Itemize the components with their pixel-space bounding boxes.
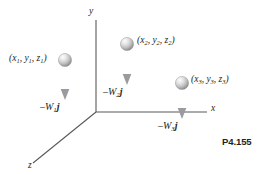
diagram-canvas bbox=[0, 0, 277, 175]
mass-1-sphere bbox=[58, 53, 71, 66]
mass-3-force-minus-w: –W bbox=[158, 120, 171, 131]
mass-2-coord-label: (x2, y2, z2) bbox=[137, 36, 175, 46]
mass-2-coord-close: ) bbox=[172, 35, 175, 45]
mass-2-force-sub: 2 bbox=[116, 91, 119, 98]
mass-1-coord-close: ) bbox=[44, 53, 47, 63]
z-axis-line bbox=[33, 112, 96, 163]
mass-1-coord-mid-y: , y bbox=[20, 53, 29, 63]
mass-3-force-label: –W3j bbox=[158, 121, 178, 131]
x-axis-label: x bbox=[211, 104, 215, 114]
mass-1-coord-sub-x: 1 bbox=[16, 57, 19, 64]
mass-3-coord-sub-y: 3 bbox=[211, 78, 214, 85]
mass-1-force-jvector: j bbox=[57, 101, 60, 112]
mass-3-coord-close: ) bbox=[226, 74, 229, 84]
mass-2-arrowhead bbox=[123, 74, 132, 85]
mass-3-sphere bbox=[175, 76, 188, 89]
mass-1-coord-sub-z: 1 bbox=[40, 57, 43, 64]
z-axis-label: z bbox=[28, 161, 32, 171]
y-axis-label: y bbox=[89, 7, 93, 17]
mass-2-coord-mid-y: , y bbox=[148, 35, 157, 45]
mass-3-force-sub: 3 bbox=[171, 125, 174, 132]
mass-2-group bbox=[120, 37, 133, 85]
mass-1-arrowhead bbox=[61, 89, 70, 100]
mass-2-coord-sub-y: 2 bbox=[157, 39, 160, 46]
figure-container: y x z (x1, y1, z1) –W1j (x2, y2, z2) –W2… bbox=[0, 0, 277, 175]
mass-1-force-sub: 1 bbox=[53, 106, 56, 113]
mass-2-coord-sub-x: 2 bbox=[144, 39, 147, 46]
mass-2-coord-sub-z: 2 bbox=[168, 39, 171, 46]
mass-2-force-jvector: j bbox=[120, 86, 123, 97]
mass-2-sphere bbox=[120, 37, 133, 50]
problem-number: P4.155 bbox=[222, 137, 252, 147]
mass-1-coord-sub-y: 1 bbox=[29, 57, 32, 64]
mass-3-coord-sub-z: 3 bbox=[222, 78, 225, 85]
mass-3-group bbox=[175, 76, 188, 119]
mass-2-force-label: –W2j bbox=[103, 87, 123, 97]
mass-3-force-jvector: j bbox=[175, 120, 178, 131]
mass-1-coord-label: (x1, y1, z1) bbox=[9, 54, 47, 64]
mass-1-group bbox=[58, 53, 71, 100]
mass-3-coord-sub-x: 3 bbox=[198, 78, 201, 85]
mass-1-force-label: –W1j bbox=[40, 102, 60, 112]
mass-3-coord-mid-y: , y bbox=[202, 74, 211, 84]
mass-2-force-minus-w: –W bbox=[103, 86, 116, 97]
mass-3-arrowhead bbox=[178, 108, 187, 119]
mass-1-force-minus-w: –W bbox=[40, 101, 53, 112]
mass-3-coord-label: (x3, y3, z3) bbox=[191, 75, 229, 85]
